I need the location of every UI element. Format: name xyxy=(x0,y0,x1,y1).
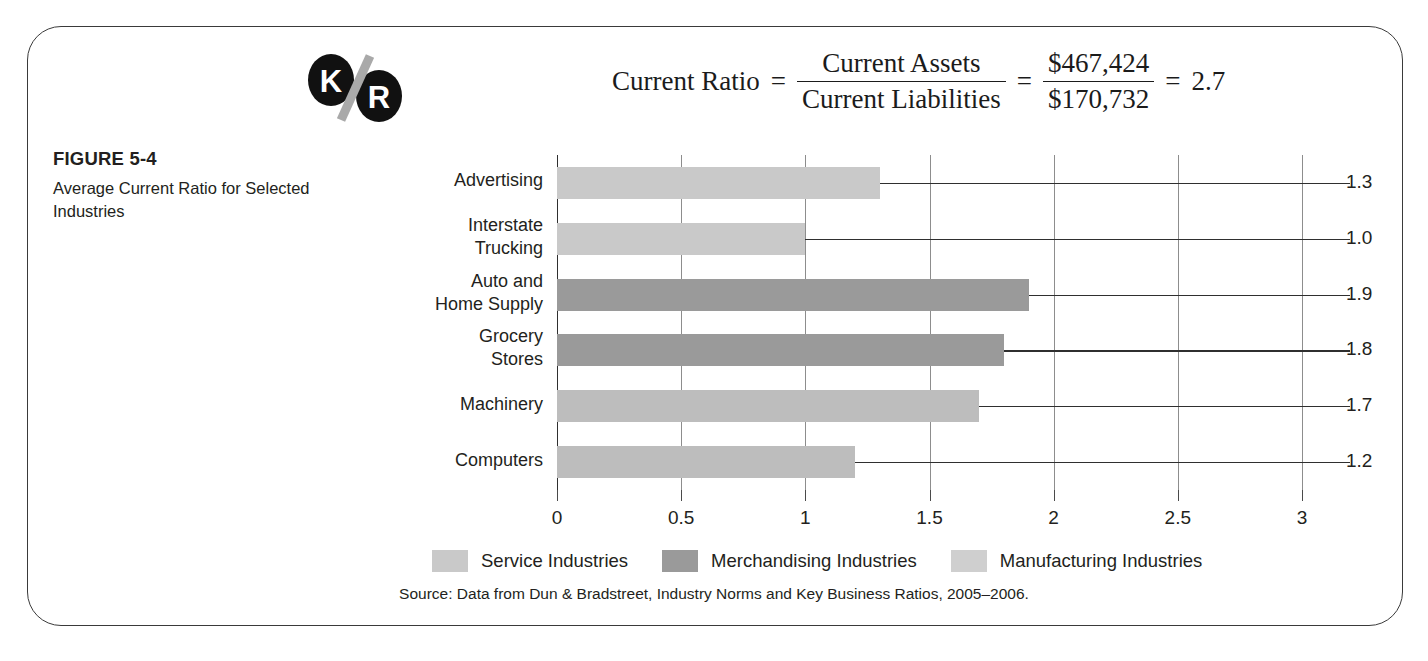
bar-computers xyxy=(557,446,855,478)
bar-auto-and-home-supply xyxy=(557,279,1029,311)
gridline-2 xyxy=(1054,155,1055,490)
value-label: 1.7 xyxy=(1346,394,1372,416)
bar-row xyxy=(557,279,1302,311)
source-note: Source: Data from Dun & Bradstreet, Indu… xyxy=(0,585,1428,603)
leader-line xyxy=(979,406,1350,407)
x-tick-label-1: 1 xyxy=(800,507,811,529)
formula-denominator-1: Current Liabilities xyxy=(797,81,1006,115)
value-label: 1.2 xyxy=(1346,450,1372,472)
formula-numerator-1: Current Assets xyxy=(817,48,985,81)
x-tick-label-2: 2 xyxy=(1048,507,1059,529)
legend-swatch xyxy=(662,550,698,572)
legend-item: Manufacturing Industries xyxy=(951,550,1203,572)
category-label: Auto and Home Supply xyxy=(388,270,543,316)
legend-label: Merchandising Industries xyxy=(711,550,917,572)
gridline-1 xyxy=(805,155,806,490)
plot-area: 00.511.522.53 xyxy=(557,155,1302,490)
category-label: Grocery Stores xyxy=(388,325,543,371)
legend-label: Manufacturing Industries xyxy=(1000,550,1203,572)
x-tick-3 xyxy=(1302,490,1303,501)
legend-label: Service Industries xyxy=(481,550,628,572)
figure-word: FIGURE xyxy=(53,148,124,169)
gridline-2.5 xyxy=(1178,155,1179,490)
legend-item: Merchandising Industries xyxy=(662,550,917,572)
current-ratio-formula: Current Ratio = Current Assets Current L… xyxy=(612,48,1225,114)
figure-label: FIGURE 5-4 xyxy=(53,148,363,170)
legend-item: Service Industries xyxy=(432,550,628,572)
formula-fraction-values: $467,424 $170,732 xyxy=(1043,48,1154,114)
x-tick-2 xyxy=(1054,490,1055,501)
bar-row xyxy=(557,446,1302,478)
bar-machinery xyxy=(557,390,979,422)
formula-denominator-2: $170,732 xyxy=(1043,81,1154,115)
bar-grocery-stores xyxy=(557,334,1004,366)
formula-equals-1: = xyxy=(771,66,786,97)
bar-row xyxy=(557,223,1302,255)
formula-equals-3: = xyxy=(1165,66,1180,97)
figure-title: Average Current Ratio for Selected Indus… xyxy=(53,177,363,224)
formula-lhs: Current Ratio xyxy=(612,66,760,97)
leader-line xyxy=(880,183,1350,184)
figure-caption: FIGURE 5-4 Average Current Ratio for Sel… xyxy=(53,148,363,224)
x-tick-1 xyxy=(805,490,806,501)
x-tick-0 xyxy=(557,490,558,501)
gridline-1.5 xyxy=(930,155,931,490)
gridline-3 xyxy=(1302,155,1303,490)
legend-swatch xyxy=(951,550,987,572)
x-tick-label-1.5: 1.5 xyxy=(916,507,942,529)
value-label: 1.8 xyxy=(1346,338,1372,360)
category-label: Advertising xyxy=(388,169,543,192)
leader-line xyxy=(1029,295,1350,296)
leader-line xyxy=(805,239,1350,240)
gridline-0.5 xyxy=(681,155,682,490)
x-tick-label-3: 3 xyxy=(1297,507,1308,529)
formula-equals-2: = xyxy=(1017,66,1032,97)
figure-number: 5-4 xyxy=(129,148,156,169)
gridline-0 xyxy=(557,155,558,490)
x-tick-label-0.5: 0.5 xyxy=(668,507,694,529)
bar-row xyxy=(557,390,1302,422)
bar-chart: AdvertisingInterstate TruckingAuto and H… xyxy=(388,155,1348,505)
value-labels: 1.31.01.91.81.71.2 xyxy=(1333,155,1423,490)
value-label: 1.9 xyxy=(1346,283,1372,305)
formula-numerator-2: $467,424 xyxy=(1043,48,1154,81)
kr-logo: K R xyxy=(301,50,409,122)
x-tick-0.5 xyxy=(681,490,682,501)
legend-swatch xyxy=(432,550,468,572)
category-label: Machinery xyxy=(388,393,543,416)
formula-result: 2.7 xyxy=(1191,66,1225,97)
kr-logo-svg: K R xyxy=(301,50,409,122)
bar-row xyxy=(557,167,1302,199)
x-tick-label-0: 0 xyxy=(552,507,563,529)
value-label: 1.0 xyxy=(1346,227,1372,249)
leader-line xyxy=(1004,350,1350,351)
value-label: 1.3 xyxy=(1346,171,1372,193)
x-tick-1.5 xyxy=(930,490,931,501)
leader-line xyxy=(855,462,1350,463)
bar-row xyxy=(557,334,1302,366)
kr-logo-right-letter: R xyxy=(368,80,390,115)
category-label: Computers xyxy=(388,449,543,472)
bar-advertising xyxy=(557,167,880,199)
x-tick-2.5 xyxy=(1178,490,1179,501)
chart-legend: Service IndustriesMerchandising Industri… xyxy=(432,550,1236,572)
x-tick-label-2.5: 2.5 xyxy=(1165,507,1191,529)
bar-interstate-trucking xyxy=(557,223,805,255)
category-label: Interstate Trucking xyxy=(388,214,543,260)
formula-fraction-definition: Current Assets Current Liabilities xyxy=(797,48,1006,114)
kr-logo-left-letter: K xyxy=(320,64,343,99)
category-labels: AdvertisingInterstate TruckingAuto and H… xyxy=(388,155,543,490)
